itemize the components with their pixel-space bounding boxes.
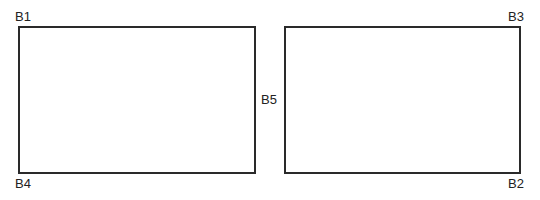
label-b1: B1 (15, 10, 31, 24)
label-b4: B4 (15, 177, 31, 191)
label-b5: B5 (261, 93, 277, 107)
label-b3: B3 (508, 10, 524, 24)
right-rectangle (284, 26, 521, 174)
left-rectangle (18, 26, 256, 174)
label-b2: B2 (508, 177, 524, 191)
